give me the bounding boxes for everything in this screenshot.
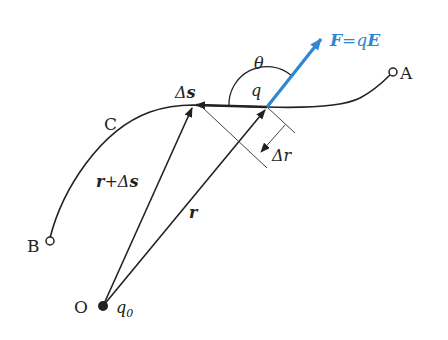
label-curve-c: C (104, 114, 117, 134)
label-theta: θ (254, 54, 264, 73)
perp-line-ds (203, 108, 267, 168)
point-a-marker (389, 68, 397, 76)
force-vector (267, 39, 321, 107)
label-force-equation: F=qE (329, 30, 381, 50)
label-o: O (74, 297, 88, 317)
delta-s-vector (196, 105, 267, 107)
r-vector (103, 110, 265, 306)
label-a: A (399, 63, 413, 83)
label-b: B (27, 236, 40, 256)
label-delta-s: Δs (174, 83, 196, 102)
label-test-charge: q (251, 81, 261, 100)
label-r-plus-delta-s: r+Δs (96, 172, 138, 191)
label-source-charge: q0 (116, 298, 133, 320)
source-charge-dot (98, 301, 108, 311)
point-b-marker (46, 237, 54, 245)
label-delta-r: Δr (271, 146, 293, 165)
path-curve-c (50, 75, 390, 238)
diagram-canvas: A B O C q0 q θ F=qE Δs Δr r+Δs r (0, 0, 448, 340)
r-plus-delta-s-vector (103, 108, 192, 306)
label-r: r (189, 203, 199, 222)
